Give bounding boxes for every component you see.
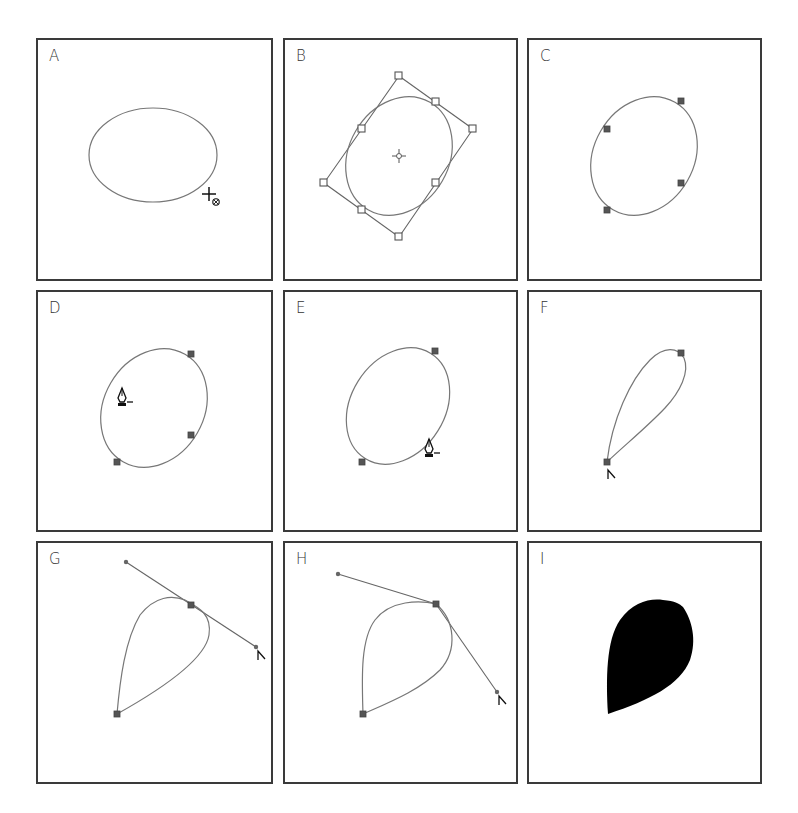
- center-point-icon: [392, 149, 406, 163]
- anchor-point-icon[interactable]: [678, 98, 684, 104]
- ellipse-path: [570, 77, 719, 234]
- bbox-handle-icon[interactable]: [395, 233, 402, 240]
- anchor-point-icon[interactable]: [604, 459, 610, 465]
- anchor-point-icon[interactable]: [360, 711, 366, 717]
- ellipse-path: [89, 108, 217, 202]
- anchor-point-icon[interactable]: [188, 351, 194, 357]
- delete-anchor-pen-cursor-icon: [118, 388, 133, 406]
- anchor-point-icon[interactable]: [188, 602, 194, 608]
- convert-point-cursor-icon: [499, 696, 506, 705]
- teardrop-path: [607, 350, 686, 462]
- direction-handle-icon[interactable]: [254, 645, 258, 649]
- bbox-handle-icon[interactable]: [320, 179, 327, 186]
- convert-point-cursor-icon: [258, 651, 265, 660]
- convert-point-cursor-icon: [608, 470, 615, 479]
- anchor-point-icon[interactable]: [114, 459, 120, 465]
- anchor-point-icon[interactable]: [678, 350, 684, 356]
- teardrop-path: [117, 597, 209, 714]
- direction-handle-icon[interactable]: [495, 690, 499, 694]
- panel-a-drawing: [89, 108, 219, 205]
- anchor-point-icon[interactable]: [188, 432, 194, 438]
- filled-leaf-shape: [607, 600, 693, 714]
- panel-c-drawing: [570, 77, 719, 234]
- anchor-point-icon[interactable]: [604, 126, 610, 132]
- anchor-point-icon[interactable]: [433, 601, 439, 607]
- panel-i-drawing: [607, 600, 693, 714]
- anchor-point-icon[interactable]: [114, 711, 120, 717]
- drawing-canvas: [0, 0, 798, 813]
- anchor-point-icon[interactable]: [678, 180, 684, 186]
- delete-anchor-pen-cursor-icon: [425, 439, 440, 457]
- direction-handle-line: [436, 604, 497, 692]
- crosshair-cursor-icon: [202, 187, 219, 205]
- anchor-point-icon[interactable]: [604, 207, 610, 213]
- direction-handle-line: [338, 574, 436, 604]
- bbox-handle-icon[interactable]: [358, 125, 365, 132]
- anchor-point-icon[interactable]: [359, 459, 365, 465]
- panel-g-drawing: [114, 560, 265, 717]
- panel-f-drawing: [604, 350, 686, 479]
- panel-e-drawing: [325, 329, 470, 484]
- direction-handle-icon[interactable]: [124, 560, 128, 564]
- direction-handle-icon[interactable]: [336, 572, 340, 576]
- ellipse-path: [325, 329, 470, 484]
- bbox-handle-icon[interactable]: [432, 179, 439, 186]
- ellipse-path: [80, 329, 229, 486]
- panel-d-drawing: [80, 329, 229, 486]
- anchor-point-icon[interactable]: [432, 348, 438, 354]
- teardrop-path: [362, 602, 452, 714]
- bbox-handle-icon[interactable]: [469, 125, 476, 132]
- bbox-handle-icon[interactable]: [358, 206, 365, 213]
- panel-h-drawing: [336, 572, 506, 717]
- panel-b-drawing: [320, 72, 476, 240]
- bbox-handle-icon[interactable]: [395, 72, 402, 79]
- bbox-handle-icon[interactable]: [432, 98, 439, 105]
- rotated-ellipse-path: [325, 77, 474, 234]
